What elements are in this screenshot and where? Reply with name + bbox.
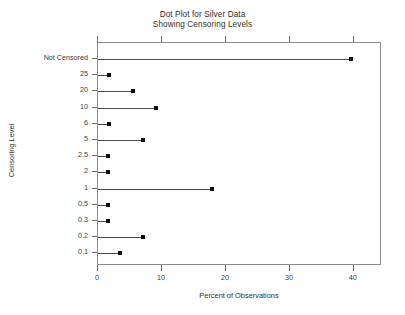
chart-title: Dot Plot for Silver Data Showing Censori… [0, 10, 405, 31]
y-axis-tick-label: 5 [0, 135, 88, 143]
dot-plot-figure: Dot Plot for Silver Data Showing Censori… [0, 0, 405, 315]
y-axis-tick-label: 1 [0, 184, 88, 192]
x-axis-tick [97, 265, 98, 271]
y-axis-tick-label: 0.3 [0, 216, 88, 224]
y-axis-tick-label: 20 [0, 86, 88, 94]
data-point [106, 170, 110, 174]
dot-row-line [98, 140, 143, 141]
x-axis-tick-top [97, 36, 98, 42]
x-axis-tick [289, 265, 290, 271]
data-point [131, 89, 135, 93]
data-point [118, 251, 122, 255]
y-axis-tick-label: 2.5 [0, 151, 88, 159]
x-axis-tick-label: 10 [141, 274, 181, 282]
data-point [106, 154, 110, 158]
y-axis-tick-label: 0.5 [0, 200, 88, 208]
dot-row-line [98, 91, 133, 92]
x-axis-tick-top [353, 36, 354, 42]
data-point [106, 219, 110, 223]
x-axis-tick-label: 0 [77, 274, 117, 282]
x-axis-tick-top [225, 36, 226, 42]
y-axis-tick-label: 2 [0, 167, 88, 175]
y-axis-tick-label: 25 [0, 70, 88, 78]
data-point [141, 235, 145, 239]
dot-row-line [98, 108, 156, 109]
dot-row-line [98, 59, 351, 60]
x-axis-tick-label: 40 [333, 274, 373, 282]
plot-area [97, 42, 381, 265]
dot-row-line [98, 237, 143, 238]
data-point [141, 138, 145, 142]
y-axis-tick-label: 10 [0, 103, 88, 111]
chart-title-line-1: Dot Plot for Silver Data [160, 10, 246, 19]
x-axis-tick-top [289, 36, 290, 42]
dot-row-line [98, 253, 120, 254]
y-axis-tick-label: Not Censored [0, 54, 88, 62]
data-point [106, 203, 110, 207]
data-point [210, 187, 214, 191]
data-point [107, 122, 111, 126]
data-point [349, 57, 353, 61]
x-axis-tick [353, 265, 354, 271]
x-axis-tick [161, 265, 162, 271]
y-axis-tick-label: 6 [0, 119, 88, 127]
y-axis-tick-label: 0.2 [0, 232, 88, 240]
x-axis-title: Percent of Observations [97, 291, 381, 300]
x-axis-tick-label: 20 [205, 274, 245, 282]
chart-title-line-2: Showing Censoring Levels [0, 20, 405, 30]
x-axis-tick [225, 265, 226, 271]
y-axis-tick-label: 0.1 [0, 248, 88, 256]
dot-row-line [98, 189, 212, 190]
data-point [107, 73, 111, 77]
data-point [154, 106, 158, 110]
x-axis-tick-label: 30 [269, 274, 309, 282]
x-axis-tick-top [161, 36, 162, 42]
